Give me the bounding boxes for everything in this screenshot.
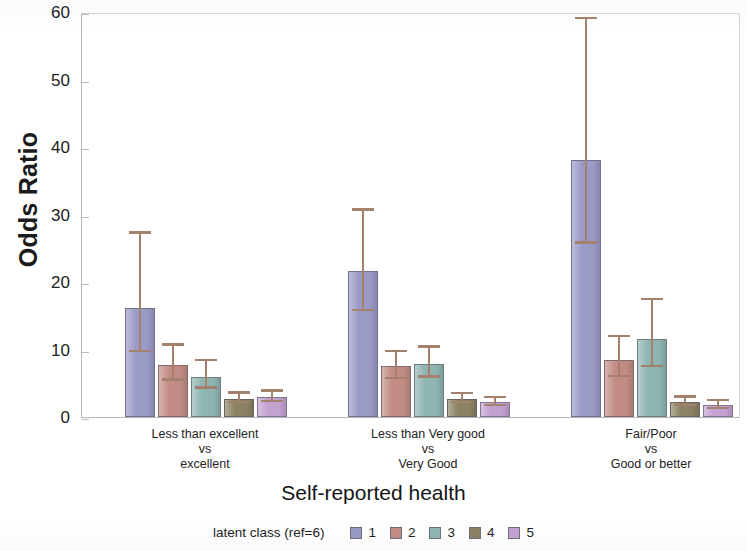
bar-group-1-series-1 [125,12,155,417]
error-bar-cap-upper [228,391,250,393]
error-bar-stem [172,343,174,380]
bar-shadow [180,366,187,416]
odds-ratio-bar-chart: Odds Ratio 0102030405060 Less than excel… [0,0,747,551]
legend-swatch-1 [350,527,362,539]
error-bar-cap-upper [451,392,473,394]
x-category-label-line: Fair/Poor [541,427,747,442]
bar-group-2-series-2 [381,12,411,417]
error-bar-cap-upper [352,208,374,210]
bar-group-2-series-5 [480,12,510,417]
error-bar-cap-upper [261,389,283,391]
error-bar-cap-lower [129,350,151,352]
bar-shadow [370,272,377,416]
bar-highlight [192,378,202,417]
x-category-label-line: Less than excellent [95,427,315,442]
y-tick-mark [82,284,89,285]
bar-highlight [349,272,359,416]
error-bar-cap-lower [385,377,407,379]
y-tick-label: 10 [51,341,70,361]
error-bar-cap-upper [385,350,407,352]
legend-label: 2 [408,525,416,540]
error-bar-cap-lower [641,365,663,367]
bar-group-2-series-3 [414,12,444,417]
bar-highlight [382,367,392,416]
x-category-label-line: Very Good [318,457,538,472]
x-category-label-line: vs [318,442,538,457]
error-bar-cap-upper [162,343,184,345]
bar-highlight [572,161,582,416]
y-tick-mark [82,352,89,353]
error-bar-stem [205,359,207,389]
bar-highlight [159,366,169,416]
bar-shadow [659,340,666,416]
error-bar-cap-upper [484,396,506,398]
legend-items: 12345 [350,525,534,540]
y-tick-label: 40 [51,138,70,158]
error-bar-cap-upper [641,298,663,300]
x-category-label-1: Less than excellentvsexcellent [95,427,315,472]
error-bar-stem [585,17,587,244]
y-tick-mark [82,82,89,83]
error-bar-cap-lower [162,378,184,380]
chart-legend: latent class (ref=6) 12345 [0,525,747,540]
error-bar-cap-lower [451,401,473,403]
legend-swatch-5 [508,527,520,539]
error-bar-cap-lower [484,404,506,406]
legend-item-3[interactable]: 3 [429,525,455,540]
error-bar-stem [428,345,430,377]
bar-group-3-series-5 [703,12,733,417]
legend-label: 5 [526,525,534,540]
y-tick-label: 60 [51,3,70,23]
x-category-label-line: vs [95,442,315,457]
legend-label: 1 [368,525,376,540]
y-tick-label: 20 [51,273,70,293]
y-tick-mark [82,217,89,218]
error-bar-stem [395,350,397,380]
error-bar-cap-lower [575,241,597,243]
error-bar-cap-upper [674,395,696,397]
bar-shadow [147,309,154,416]
legend-swatch-2 [390,527,402,539]
x-category-label-line: excellent [95,457,315,472]
bar-group-2-series-1 [348,12,378,417]
error-bar-cap-lower [195,386,217,388]
x-category-label-line: Less than Very good [318,427,538,442]
legend-item-4[interactable]: 4 [469,525,495,540]
bar-highlight [638,340,648,416]
error-bar-cap-lower [352,309,374,311]
bar-group-1-series-3 [191,12,221,417]
error-bar-stem [651,298,653,368]
x-category-label-line: Good or better [541,457,747,472]
legend-label: 4 [487,525,495,540]
bar-shadow [213,378,220,417]
bar-group-3-series-1 [571,12,601,417]
y-tick-label: 50 [51,71,70,91]
error-bar-cap-upper [129,231,151,233]
legend-item-1[interactable]: 1 [350,525,376,540]
x-category-label-2: Less than Very goodvsVery Good [318,427,538,472]
error-bar-cap-upper [707,399,729,401]
bar-group-1-series-2 [158,12,188,417]
error-bar-cap-upper [608,335,630,337]
y-axis-title: Odds Ratio [14,110,43,290]
y-tick-mark [82,419,89,420]
legend-swatch-3 [429,527,441,539]
legend-title: latent class (ref=6) [213,525,324,540]
error-bar-cap-lower [608,375,630,377]
y-tick-mark [82,149,89,150]
y-tick-mark [82,14,89,15]
error-bar-cap-lower [674,404,696,406]
legend-label: 3 [447,525,455,540]
bar-highlight [415,365,425,416]
bar-shadow [593,161,600,416]
legend-item-5[interactable]: 5 [508,525,534,540]
legend-swatch-4 [469,527,481,539]
error-bar-cap-upper [418,345,440,347]
bar-group-3-series-4 [670,12,700,417]
y-tick-label: 30 [51,206,70,226]
legend-item-2[interactable]: 2 [390,525,416,540]
x-category-label-line: vs [541,442,747,457]
error-bar-stem [362,208,364,311]
error-bar-cap-lower [418,375,440,377]
bar-group-1-series-4 [224,12,254,417]
